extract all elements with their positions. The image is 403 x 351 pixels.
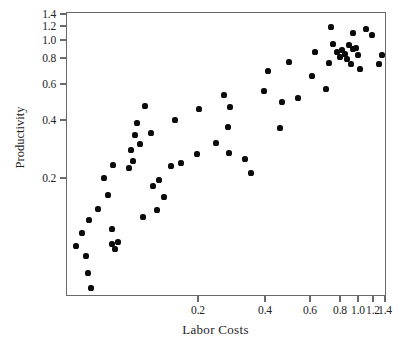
data-point — [85, 270, 90, 275]
data-point — [369, 32, 374, 37]
data-point — [194, 151, 199, 156]
data-point — [142, 103, 147, 108]
x-tick-mark — [197, 296, 198, 302]
x-tick-label: 0.2 — [191, 304, 205, 316]
y-tick-label: 1.4 — [42, 8, 56, 20]
x-tick-mark — [384, 296, 385, 302]
data-point — [326, 60, 331, 65]
data-point — [115, 239, 120, 244]
data-point — [161, 194, 166, 199]
data-point — [353, 45, 358, 50]
data-point — [295, 95, 300, 100]
data-point — [226, 150, 231, 155]
y-tick-mark — [60, 119, 66, 120]
data-point — [79, 230, 84, 235]
data-point — [168, 163, 173, 168]
data-point — [227, 104, 232, 109]
x-tick-label: 0.6 — [303, 304, 317, 316]
y-axis-title: Productivity — [13, 73, 28, 203]
y-tick-label: 0.2 — [42, 172, 56, 184]
plot-area — [66, 12, 386, 296]
data-point — [286, 59, 291, 64]
data-point — [379, 52, 384, 57]
data-point — [137, 141, 142, 146]
data-point — [265, 68, 270, 73]
data-point — [242, 156, 247, 161]
data-point — [101, 175, 106, 180]
data-point — [150, 183, 155, 188]
y-tick-mark — [60, 39, 66, 40]
data-point — [328, 24, 333, 29]
data-point — [348, 61, 353, 66]
data-point — [261, 88, 266, 93]
data-point — [213, 140, 218, 145]
data-point — [221, 92, 226, 97]
y-tick-mark — [60, 25, 66, 26]
data-point — [277, 125, 282, 130]
y-tick-mark — [60, 13, 66, 14]
data-point — [172, 117, 177, 122]
y-tick-label: 0.8 — [42, 52, 56, 64]
data-point — [148, 130, 153, 135]
x-axis-title-text: Labor Costs — [182, 322, 249, 338]
y-tick-label: 0.6 — [42, 78, 56, 90]
y-tick-label: 0.4 — [42, 114, 56, 126]
y-tick-label: 1.2 — [42, 20, 56, 32]
data-point — [88, 285, 93, 290]
data-point — [376, 61, 381, 66]
scatter-plot-figure: 0.20.40.60.81.01.21.4 0.20.40.60.81.01.2… — [0, 0, 403, 351]
x-tick-label: 1.4 — [378, 304, 392, 316]
data-point — [225, 124, 230, 129]
data-point — [95, 206, 100, 211]
x-tick-label: 0.8 — [333, 304, 347, 316]
data-point — [130, 158, 135, 163]
data-point — [140, 214, 145, 219]
data-point — [309, 73, 314, 78]
data-point — [126, 165, 131, 170]
x-tick-mark — [309, 296, 310, 302]
y-tick-mark — [60, 57, 66, 58]
data-point — [105, 192, 110, 197]
data-point — [128, 147, 133, 152]
data-point — [279, 99, 284, 104]
y-tick-label: 1.0 — [42, 34, 56, 46]
data-point — [156, 177, 161, 182]
data-point — [154, 207, 159, 212]
data-point — [357, 66, 362, 71]
y-tick-mark — [60, 177, 66, 178]
data-point — [109, 226, 114, 231]
x-tick-mark — [339, 296, 340, 302]
data-point — [330, 41, 335, 46]
x-axis-title: Labor Costs — [0, 322, 403, 338]
x-tick-mark — [357, 296, 358, 302]
x-tick-mark — [372, 296, 373, 302]
data-point — [178, 160, 183, 165]
y-tick-mark — [60, 83, 66, 84]
data-point — [196, 106, 201, 111]
data-point — [350, 30, 355, 35]
data-point — [86, 217, 91, 222]
data-point — [112, 246, 117, 251]
x-tick-label: 1.0 — [351, 304, 365, 316]
x-tick-mark — [264, 296, 265, 302]
data-point — [355, 52, 360, 57]
data-point — [110, 162, 115, 167]
x-tick-label: 0.4 — [258, 304, 272, 316]
data-point — [312, 49, 317, 54]
data-point — [132, 132, 137, 137]
data-point — [73, 243, 78, 248]
data-point — [323, 86, 328, 91]
data-point — [83, 253, 88, 258]
data-point — [363, 26, 368, 31]
data-point — [248, 170, 253, 175]
data-point — [134, 120, 139, 125]
